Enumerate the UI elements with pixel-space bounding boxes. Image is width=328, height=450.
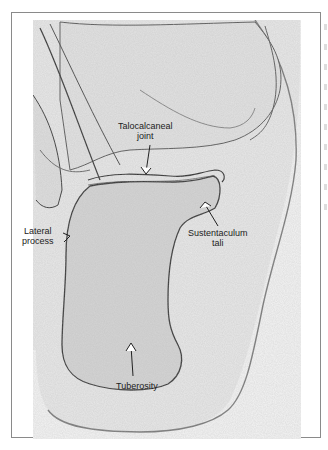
page-margin-bleed (324, 10, 328, 450)
label-tuberosity: Tuberosity (116, 381, 158, 391)
label-talocalcaneal-joint: Talocalcaneal joint (118, 121, 173, 141)
label-lateral-process: Lateral process (22, 226, 54, 246)
label-sustentaculum-tali: Sustentaculum tali (188, 228, 248, 248)
radiograph-image (0, 0, 328, 450)
